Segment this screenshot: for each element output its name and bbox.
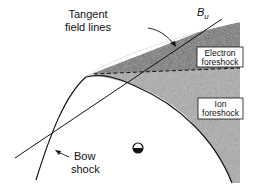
bow-shock-label-line2: shock [71, 163, 100, 175]
tangent-label-line1: Tangent [68, 8, 107, 20]
tangent-label-line2: field lines [65, 21, 111, 33]
field-symbol: B [197, 6, 204, 18]
ion-foreshock-region [92, 68, 240, 183]
field-subscript: u [204, 12, 209, 21]
bow-shock-arrowhead-icon [55, 150, 61, 155]
foreshock-diagram: Tangent field lines Bu Electron foreshoc… [0, 0, 256, 188]
earth-icon [133, 143, 143, 153]
electron-foreshock-label-line2: foreshock [202, 57, 240, 67]
bow-shock-label-line1: Bow [74, 150, 95, 162]
field-label: Bu [197, 6, 209, 21]
ion-foreshock-label-line2: foreshock [202, 108, 240, 118]
